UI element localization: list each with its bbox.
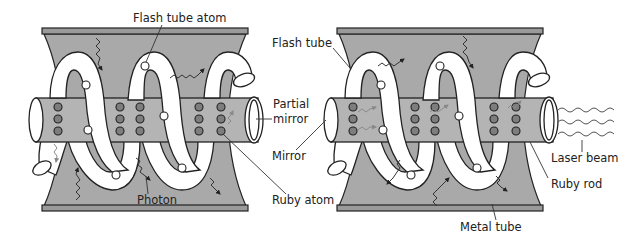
laser-beam-label: Laser beam (551, 151, 619, 165)
partial-mirror-label-line2: mirror (273, 112, 308, 126)
ruby-atom-label: Ruby atom (272, 193, 334, 207)
laser-diagram: Flash tube atom Partial mirror Photon Ru… (0, 0, 643, 244)
flash-tube-label: Flash tube (272, 36, 332, 50)
ruby-rod-label: Ruby rod (551, 177, 602, 191)
partial-mirror-label-line1: Partial (273, 97, 309, 111)
flash-tube-atom-label: Flash tube atom (133, 11, 226, 25)
mirror-label: Mirror (272, 149, 306, 163)
photon-label: Photon (137, 193, 177, 207)
laser-beam (558, 108, 614, 136)
metal-tube-label: Metal tube (460, 220, 522, 234)
